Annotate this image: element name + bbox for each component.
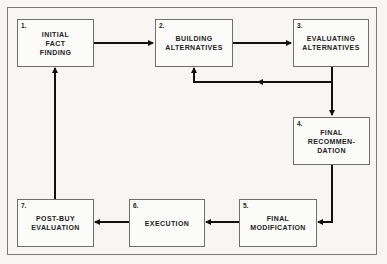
step-label: FINAL RECOMMEN- DATION xyxy=(308,128,356,155)
step-label: FINAL MODIFICATION xyxy=(250,214,306,232)
step-label: INITIAL FACT FINDING xyxy=(40,30,72,57)
step-3-evaluating-alternatives: 3. EVALUATING ALTERNATIVES xyxy=(293,19,369,67)
step-4-final-recommendation: 4. FINAL RECOMMEN- DATION xyxy=(293,117,370,165)
step-number: 1. xyxy=(21,22,26,29)
step-5-final-modification: 5. FINAL MODIFICATION xyxy=(239,199,317,247)
step-number: 7. xyxy=(21,202,26,209)
step-7-post-buy-evaluation: 7. POST-BUY EVALUATION xyxy=(17,199,94,247)
step-2-building-alternatives: 2. BUILDING ALTERNATIVES xyxy=(155,19,233,67)
arrow-4-to-5 xyxy=(318,164,332,222)
step-label: BUILDING ALTERNATIVES xyxy=(165,34,222,52)
step-1-initial-fact-finding: 1. INITIAL FACT FINDING xyxy=(17,19,94,67)
step-label: POST-BUY EVALUATION xyxy=(31,214,79,232)
arrow-3-to-2-feedback xyxy=(194,68,332,82)
step-number: 4. xyxy=(297,120,302,127)
step-6-execution: 6. EXECUTION xyxy=(129,199,205,247)
step-number: 5. xyxy=(243,202,248,209)
step-number: 2. xyxy=(159,22,164,29)
step-label: EXECUTION xyxy=(145,219,189,228)
step-number: 3. xyxy=(297,22,302,29)
step-label: EVALUATING ALTERNATIVES xyxy=(302,34,359,52)
step-number: 6. xyxy=(133,202,138,209)
